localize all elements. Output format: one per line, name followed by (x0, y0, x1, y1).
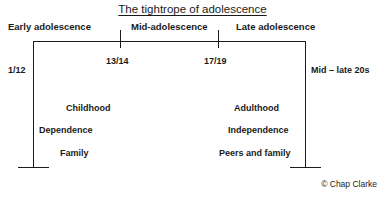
right-term-adulthood: Adulthood (234, 104, 279, 113)
stage-label-late-adolescence: Late adolescence (236, 22, 315, 32)
copyright-notice: © Chap Clarke (321, 180, 377, 189)
stage-label-mid-adolescence: Mid-adolescence (131, 22, 208, 32)
timeline-tick-17-19 (218, 30, 219, 48)
timeline-horizontal-rule (33, 41, 306, 42)
left-boundary-vertical (33, 41, 34, 168)
left-boundary-foot (18, 167, 49, 168)
right-boundary-vertical (305, 41, 306, 168)
left-term-family: Family (60, 149, 89, 158)
page-title: The tightrope of adolescence (0, 4, 385, 16)
stage-label-early-adolescence: Early adolescence (8, 22, 91, 32)
tightrope-of-adolescence-diagram: The tightrope of adolescence Early adole… (0, 0, 385, 202)
age-marker-17-19: 17/19 (204, 57, 227, 66)
timeline-tick-13-14 (120, 30, 121, 48)
age-marker-mid-late-20s: Mid – late 20s (311, 66, 370, 75)
right-boundary-foot (290, 167, 321, 168)
right-term-independence: Independence (228, 126, 289, 135)
left-term-dependence: Dependence (39, 126, 93, 135)
right-term-peers-and-family: Peers and family (219, 149, 291, 158)
age-marker-13-14: 13/14 (106, 57, 129, 66)
age-marker-1-12: 1/12 (8, 66, 26, 75)
left-term-childhood: Childhood (66, 104, 111, 113)
